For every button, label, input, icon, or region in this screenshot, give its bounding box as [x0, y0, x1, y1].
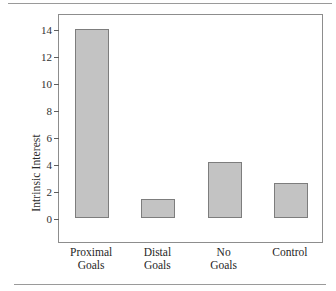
x-label-line: Proximal — [70, 246, 112, 259]
x-label-line: Goals — [70, 259, 112, 272]
x-label-line: Goals — [210, 259, 237, 272]
y-axis-title: Intrinsic Interest — [28, 98, 44, 248]
x-label-distal-goals: DistalGoals — [144, 246, 171, 272]
y-tick-label: 4 — [47, 159, 53, 171]
y-tick-label: 14 — [41, 24, 52, 36]
y-tick-label: 12 — [41, 51, 52, 63]
bar-series — [59, 15, 322, 242]
bottom-horizontal-rule — [14, 284, 326, 285]
y-tick-label: 10 — [41, 78, 52, 90]
x-label-line: Distal — [144, 246, 171, 259]
x-label-control: Control — [272, 246, 307, 259]
x-label-line: No — [210, 246, 237, 259]
x-label-line: Control — [272, 246, 307, 259]
x-label-line: Goals — [144, 259, 171, 272]
figure-container: Intrinsic Interest 02468101214 ProximalG… — [0, 0, 336, 291]
bar-distal-goals — [141, 199, 175, 218]
x-label-proximal-goals: ProximalGoals — [70, 246, 112, 272]
bar-no-goals — [208, 162, 242, 218]
y-tick-label: 0 — [47, 213, 53, 225]
x-label-no-goals: NoGoals — [210, 246, 237, 272]
plot-area: 02468101214 — [58, 14, 323, 243]
y-tick-label: 6 — [47, 132, 53, 144]
y-tick-label: 8 — [47, 105, 53, 117]
x-axis-labels: ProximalGoalsDistalGoalsNoGoalsControl — [58, 246, 323, 280]
y-tick-label: 2 — [47, 186, 53, 198]
bar-proximal-goals — [75, 29, 109, 218]
top-horizontal-rule — [8, 3, 332, 4]
bar-control — [274, 183, 308, 218]
